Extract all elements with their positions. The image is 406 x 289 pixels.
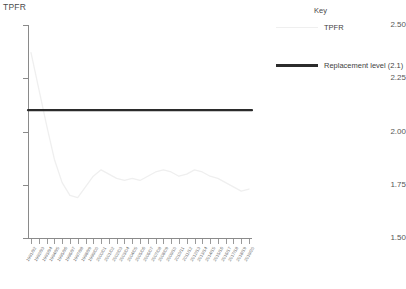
x-axis-tick xyxy=(156,239,157,244)
y-axis-line xyxy=(28,25,29,239)
y-axis-tick xyxy=(23,78,28,79)
x-axis-tick xyxy=(109,239,110,244)
x-axis-tick xyxy=(140,239,141,244)
x-axis-tick xyxy=(39,239,40,244)
x-axis-tick xyxy=(210,239,211,244)
x-axis-tick xyxy=(62,239,63,244)
x-axis-tick xyxy=(218,239,219,244)
legend-swatch-tpfr xyxy=(276,27,318,28)
y-axis-tick-label: 2.00 xyxy=(385,127,406,136)
y-axis-tick-label: 1.50 xyxy=(385,233,406,242)
x-axis-tick xyxy=(148,239,149,244)
legend-item-tpfr[interactable]: TPFR xyxy=(276,23,344,32)
y-axis-tick-label: 2.50 xyxy=(385,20,406,29)
legend-label-replacement-level: Replacement level (2.1) xyxy=(324,61,403,70)
chart-container: TPFR 1.501.752.002.252.50 1991/921992/93… xyxy=(0,0,406,289)
y-axis-tick xyxy=(23,238,28,239)
y-axis-title: TPFR xyxy=(3,2,26,12)
y-axis-tick xyxy=(23,185,28,186)
x-axis-tick xyxy=(54,239,55,244)
y-axis-tick-label: 1.75 xyxy=(385,180,406,189)
x-axis-tick xyxy=(195,239,196,244)
x-axis-tick xyxy=(101,239,102,244)
x-axis-tick xyxy=(241,239,242,244)
y-axis-tick xyxy=(23,25,28,26)
legend-label-tpfr: TPFR xyxy=(324,23,344,32)
x-axis-tick xyxy=(86,239,87,244)
y-axis-tick xyxy=(23,132,28,133)
series-line-tpfr xyxy=(31,53,249,198)
x-axis-tick xyxy=(47,239,48,244)
x-axis-tick xyxy=(78,239,79,244)
legend-title: Key xyxy=(314,6,327,15)
x-axis-tick xyxy=(202,239,203,244)
x-axis-tick xyxy=(93,239,94,244)
y-axis-tick-label: 2.25 xyxy=(385,73,406,82)
x-axis-tick xyxy=(187,239,188,244)
x-axis-tick xyxy=(233,239,234,244)
x-axis-tick xyxy=(117,239,118,244)
x-axis-tick xyxy=(163,239,164,244)
x-axis-tick xyxy=(31,239,32,244)
x-axis-tick xyxy=(70,239,71,244)
x-axis-tick xyxy=(226,239,227,244)
x-axis-tick xyxy=(179,239,180,244)
legend-swatch-replacement-level xyxy=(276,64,318,67)
x-axis-tick xyxy=(171,239,172,244)
x-axis-tick xyxy=(132,239,133,244)
legend-item-replacement-level[interactable]: Replacement level (2.1) xyxy=(276,61,403,70)
x-axis-tick xyxy=(124,239,125,244)
x-axis-tick xyxy=(249,239,250,244)
